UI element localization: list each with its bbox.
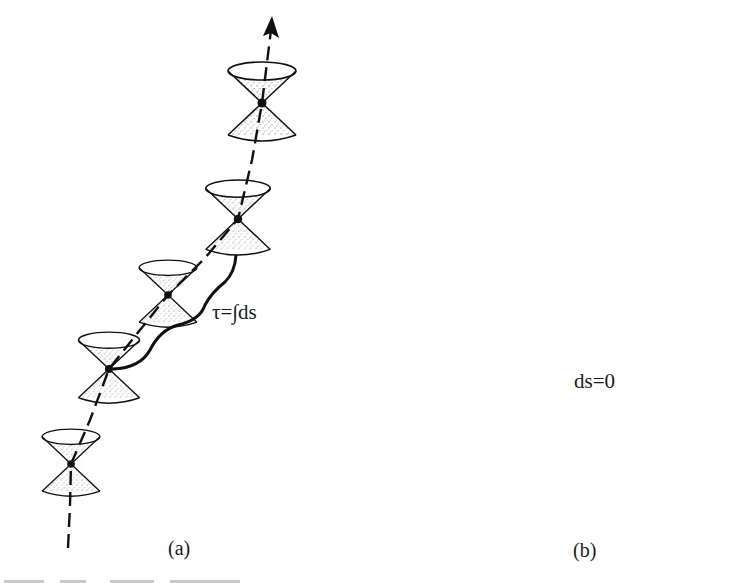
spacetime-light-cone-diagram — [0, 0, 743, 583]
panel-label-b: (b) — [573, 539, 596, 562]
panel-label-a: (a) — [168, 537, 190, 560]
proper-time-equation: τ=∫ds — [212, 300, 257, 325]
clipped-caption — [0, 576, 743, 583]
null-interval-equation: ds=0 — [574, 369, 615, 394]
panel-a — [42, 16, 296, 548]
